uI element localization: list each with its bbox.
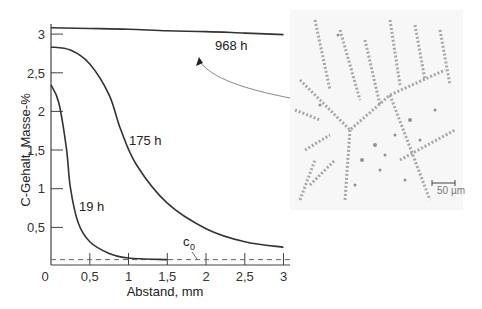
- c0-arrow-icon: [192, 252, 197, 259]
- curve-19h: [51, 85, 167, 260]
- svg-text:0,5: 0,5: [27, 220, 45, 235]
- svg-text:0,5: 0,5: [81, 269, 99, 284]
- x-tick-labels: 0 0,5 1 1,5 2 2,5 3: [41, 269, 287, 284]
- curve-968h: [51, 28, 284, 35]
- svg-text:3: 3: [280, 269, 287, 284]
- y-axis-title: C-Gehalt, Masse-%: [18, 93, 33, 207]
- svg-text:2: 2: [38, 104, 45, 119]
- svg-text:1: 1: [125, 269, 132, 284]
- annotation-arrow: [200, 62, 290, 98]
- micrograph-image: [290, 10, 463, 210]
- c0-label: c 0: [183, 234, 195, 252]
- svg-text:c: c: [183, 234, 190, 249]
- curve-label-19h: 19 h: [79, 199, 104, 214]
- svg-text:2: 2: [202, 269, 209, 284]
- svg-text:2,5: 2,5: [27, 66, 45, 81]
- svg-text:3: 3: [38, 27, 45, 42]
- x-axis-title: Abstand, mm: [127, 284, 204, 299]
- x-ticks: [90, 253, 284, 265]
- scale-bar-label: 50 µm: [437, 185, 465, 196]
- y-ticks: [51, 34, 63, 227]
- svg-text:2,5: 2,5: [236, 269, 254, 284]
- svg-text:0: 0: [190, 242, 195, 252]
- svg-text:0: 0: [41, 269, 48, 284]
- curve-175h: [51, 47, 284, 247]
- curve-label-175h: 175 h: [129, 133, 162, 148]
- svg-text:1: 1: [38, 181, 45, 196]
- svg-text:1,5: 1,5: [158, 269, 176, 284]
- curve-label-968h: 968 h: [215, 38, 248, 53]
